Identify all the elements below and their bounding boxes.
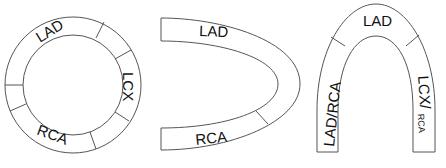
ring-inner bbox=[23, 35, 123, 135]
ring-diagram: LAD LCX RCA bbox=[5, 16, 141, 153]
arch-diagram: LAD LAD/RCA LCX/ RCA bbox=[317, 4, 436, 152]
u-band bbox=[161, 18, 300, 150]
coronary-territory-diagrams: LAD LCX RCA LAD RCA LAD LAD/RCA LCX/ RCA bbox=[0, 0, 446, 168]
label-lad: LAD bbox=[199, 22, 229, 40]
label-lad: LAD bbox=[363, 12, 392, 29]
label-rca: RCA bbox=[195, 128, 228, 148]
label-rca-sub: RCA bbox=[416, 114, 427, 134]
u-diagram: LAD RCA bbox=[161, 18, 300, 150]
label-lcx: LCX/ bbox=[415, 75, 434, 110]
label-lcx: LCX bbox=[120, 72, 137, 101]
